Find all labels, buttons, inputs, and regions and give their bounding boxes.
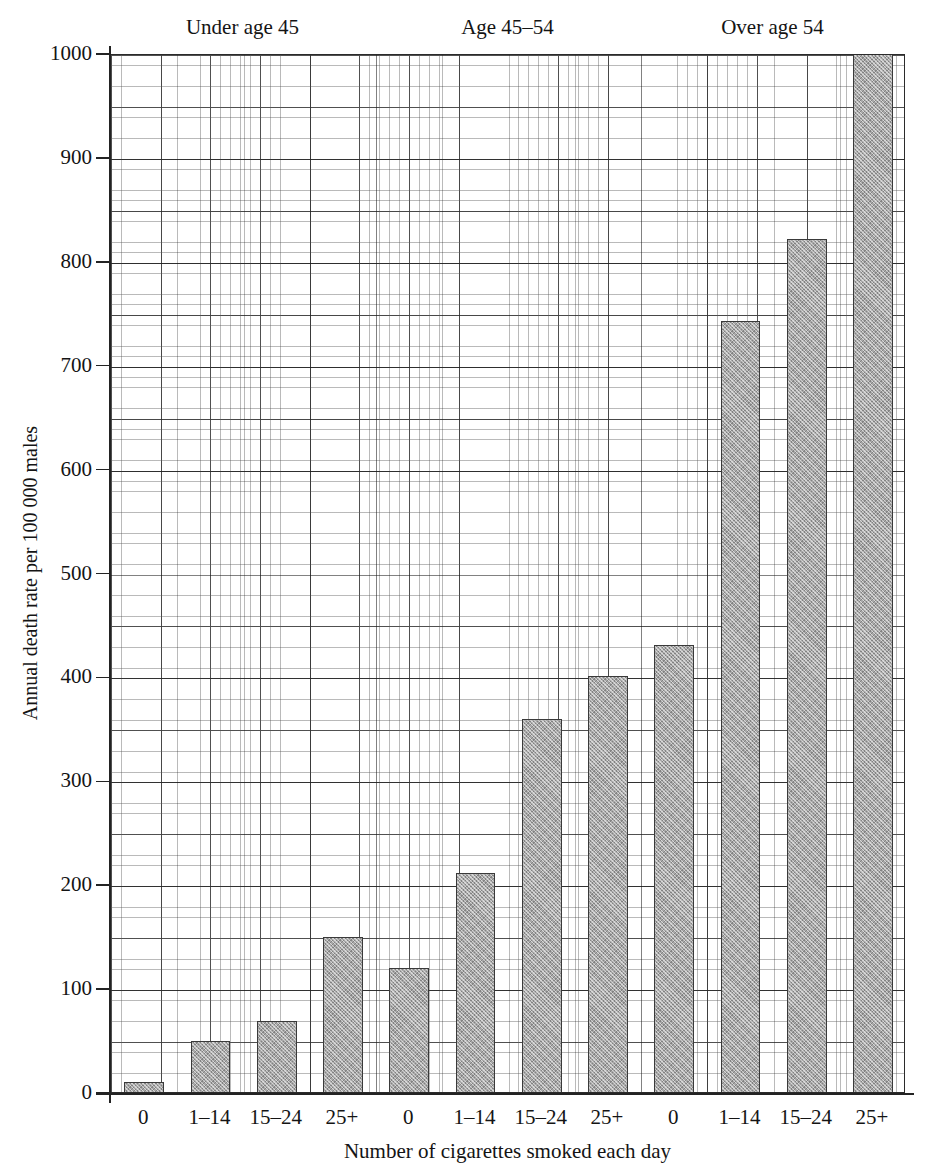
bar (257, 1021, 297, 1092)
y-tick-label: 400 (22, 666, 92, 687)
x-tick-label: 25+ (839, 1104, 905, 1130)
bar (654, 645, 694, 1092)
y-tick-800: 800 (0, 251, 92, 272)
y-tick-label: 0 (22, 1082, 92, 1103)
bar-chart-figure: Under age 45 Age 45–54 Over age 54 Annua… (0, 0, 933, 1171)
y-tick-mark-100 (96, 988, 110, 990)
bar (124, 1082, 164, 1092)
group-heading-over-age-54: Over age 54 (640, 14, 905, 40)
y-tick-label: 900 (22, 147, 92, 168)
x-tick-label: 15–24 (773, 1104, 839, 1130)
gridline-value-700 (111, 367, 904, 368)
x-tick-label: 0 (640, 1104, 706, 1130)
y-tick-mark-600 (96, 469, 110, 471)
y-tick-mark-500 (96, 573, 110, 575)
y-tick-label: 200 (22, 874, 92, 895)
x-tick-label: 25+ (574, 1104, 640, 1130)
group-heading-age-45-54: Age 45–54 (375, 14, 640, 40)
gridline-category-10 (774, 55, 775, 1092)
x-tick-label: 15–24 (508, 1104, 574, 1130)
y-tick-label: 1000 (22, 43, 92, 64)
gridline-category-11 (840, 55, 841, 1092)
gridline-value-400 (111, 678, 904, 679)
x-axis-title: Number of cigarettes smoked each day (110, 1138, 905, 1164)
gridline-category-7 (575, 55, 576, 1092)
gridline-category-5 (442, 55, 443, 1092)
group-heading-under-age-45: Under age 45 (110, 14, 375, 40)
y-tick-1000: 1000 (0, 43, 92, 64)
gridline-category-8 (641, 55, 642, 1092)
y-tick-200: 200 (0, 874, 92, 895)
bar (853, 54, 893, 1092)
x-tick-label: 1–14 (706, 1104, 772, 1130)
gridline-category-3 (310, 55, 311, 1092)
y-tick-mark-400 (96, 677, 110, 679)
y-tick-label: 100 (22, 978, 92, 999)
y-tick-label: 700 (22, 355, 92, 376)
gridline-category-1 (177, 55, 178, 1092)
y-tick-mark-300 (96, 781, 110, 783)
x-tick-label: 25+ (309, 1104, 375, 1130)
y-tick-0: 0 (0, 1082, 92, 1103)
bar (456, 873, 496, 1092)
y-tick-mark-700 (96, 365, 110, 367)
gridline-value-500 (111, 575, 904, 576)
y-tick-label: 800 (22, 251, 92, 272)
gridline-category-2 (244, 55, 245, 1092)
y-tick-700: 700 (0, 355, 92, 376)
gridline-value-300 (111, 782, 904, 783)
y-tick-mark-0 (96, 1092, 110, 1094)
bar (323, 937, 363, 1092)
x-tick-label: 15–24 (243, 1104, 309, 1130)
y-tick-label: 300 (22, 770, 92, 791)
gridline-value-600 (111, 471, 904, 472)
x-tick-label: 1–14 (176, 1104, 242, 1130)
bar (588, 676, 628, 1092)
y-tick-label: 600 (22, 459, 92, 480)
bar (522, 719, 562, 1092)
plot-area (110, 54, 905, 1093)
y-tick-mark-900 (96, 157, 110, 159)
gridline-category-4 (376, 55, 377, 1092)
y-tick-600: 600 (0, 459, 92, 480)
bar (721, 321, 761, 1092)
gridline-category-9 (707, 55, 708, 1092)
y-tick-mark-800 (96, 261, 110, 263)
y-tick-900: 900 (0, 147, 92, 168)
y-tick-400: 400 (0, 666, 92, 687)
x-tick-label: 0 (110, 1104, 176, 1130)
gridline-category-6 (509, 55, 510, 1092)
y-tick-500: 500 (0, 563, 92, 584)
gridline-value-100 (111, 990, 904, 991)
y-tick-100: 100 (0, 978, 92, 999)
bar (389, 968, 429, 1092)
x-axis-line (96, 1093, 914, 1095)
bar (787, 239, 827, 1092)
y-tick-label: 500 (22, 563, 92, 584)
gridline-value-800 (111, 263, 904, 264)
x-tick-label: 1–14 (441, 1104, 507, 1130)
x-tick-label: 0 (375, 1104, 441, 1130)
gridline-value-900 (111, 159, 904, 160)
y-tick-mark-1000 (96, 53, 110, 55)
y-tick-mark-200 (96, 884, 110, 886)
y-tick-300: 300 (0, 770, 92, 791)
gridline-value-200 (111, 886, 904, 887)
bar (191, 1041, 231, 1092)
y-axis-line (109, 46, 111, 1103)
